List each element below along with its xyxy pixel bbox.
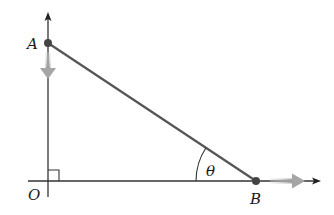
ladder-diagram: A B O θ: [0, 0, 334, 215]
label-origin: O: [28, 186, 40, 204]
down-motion-arrow-icon: [40, 52, 56, 79]
point-a: [44, 39, 52, 47]
point-b: [252, 177, 260, 185]
angle-theta-arc: [196, 148, 206, 181]
segment-ab: [48, 43, 256, 181]
right-motion-arrow-icon: [270, 174, 305, 189]
label-a: A: [25, 35, 38, 53]
label-b: B: [249, 190, 261, 208]
right-angle-marker: [48, 170, 59, 181]
label-theta: θ: [206, 162, 215, 180]
